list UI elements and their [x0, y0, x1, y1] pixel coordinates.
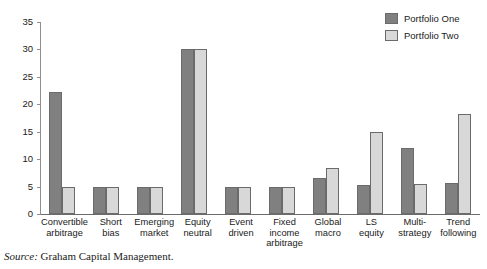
- bar-group: [392, 22, 436, 214]
- y-axis-tick-label: 35: [7, 17, 33, 27]
- category-label-line: Event: [220, 217, 261, 228]
- x-axis-category-label: Convertiblearbitrage: [40, 217, 89, 249]
- category-label-line: Trend: [438, 217, 479, 228]
- bar[interactable]: [93, 187, 106, 214]
- x-axis-category-label: Trendfollowing: [437, 217, 480, 249]
- bar[interactable]: [137, 187, 150, 214]
- category-label-line: Equity: [177, 217, 218, 228]
- bar[interactable]: [282, 187, 295, 214]
- category-label-line: arbitrage: [41, 228, 88, 239]
- bar[interactable]: [238, 187, 251, 214]
- category-label-line: LS: [351, 217, 392, 228]
- category-label-line: income: [264, 228, 305, 239]
- source-value: Graham Capital Management.: [38, 250, 174, 262]
- x-axis-category-label: Multi-strategy: [393, 217, 436, 249]
- bar[interactable]: [458, 114, 471, 214]
- bar[interactable]: [313, 178, 326, 214]
- bar[interactable]: [357, 185, 370, 214]
- category-label-line: macro: [307, 228, 348, 239]
- bar[interactable]: [194, 49, 207, 214]
- bar[interactable]: [414, 184, 427, 214]
- bar-group: [348, 22, 392, 214]
- category-label-line: Fixed: [264, 217, 305, 228]
- y-axis-tick-label: 15: [7, 127, 33, 137]
- bar-group: [436, 22, 480, 214]
- bar[interactable]: [401, 148, 414, 214]
- category-label-line: Convertible: [41, 217, 88, 228]
- category-label-line: strategy: [394, 228, 435, 239]
- x-axis-category-label: Emergingmarket: [132, 217, 175, 249]
- x-axis-category-label: Globalmacro: [306, 217, 349, 249]
- category-label-line: market: [133, 228, 174, 239]
- bar-chart-figure: Portfolio OnePortfolio Two 0510152025303…: [0, 0, 487, 269]
- category-label-line: Multi-: [394, 217, 435, 228]
- y-axis-tick-label: 30: [7, 44, 33, 54]
- y-axis-tick-label: 10: [7, 154, 33, 164]
- bar-group: [216, 22, 260, 214]
- y-axis-tick-label: 5: [7, 182, 33, 192]
- bar[interactable]: [326, 168, 339, 214]
- bar-group: [128, 22, 172, 214]
- category-label-line: driven: [220, 228, 261, 239]
- category-label-line: bias: [90, 228, 131, 239]
- x-axis-category-label: Eventdriven: [219, 217, 262, 249]
- bar-group: [40, 22, 84, 214]
- category-label-line: arbitrage: [264, 238, 305, 249]
- y-axis-tick-label: 25: [7, 72, 33, 82]
- bar[interactable]: [370, 132, 383, 214]
- plot-area: 05101520253035: [40, 22, 480, 214]
- bar[interactable]: [181, 49, 194, 214]
- x-axis-category-label: Shortbias: [89, 217, 132, 249]
- bar-group: [172, 22, 216, 214]
- y-axis-tick-label: 0: [7, 209, 33, 219]
- bar-groups: [40, 22, 480, 214]
- x-axis-category-labels: ConvertiblearbitrageShortbiasEmergingmar…: [40, 217, 480, 249]
- bar-group: [304, 22, 348, 214]
- bar[interactable]: [445, 183, 458, 214]
- bar[interactable]: [225, 187, 238, 214]
- bar[interactable]: [62, 187, 75, 214]
- category-label-line: Global: [307, 217, 348, 228]
- category-label-line: Emerging: [133, 217, 174, 228]
- y-axis-tick-label: 20: [7, 99, 33, 109]
- category-label-line: equity: [351, 228, 392, 239]
- category-label-line: Short: [90, 217, 131, 228]
- bar[interactable]: [269, 187, 282, 214]
- x-axis-category-label: Equityneutral: [176, 217, 219, 249]
- bar-group: [84, 22, 128, 214]
- x-axis-category-label: Fixedincomearbitrage: [263, 217, 306, 249]
- source-label: Source:: [4, 250, 38, 262]
- bar-group: [260, 22, 304, 214]
- source-caption: Source: Graham Capital Management.: [4, 250, 173, 263]
- category-label-line: following: [438, 228, 479, 239]
- y-axis-tick-mark: [37, 214, 41, 215]
- bar[interactable]: [49, 92, 62, 214]
- category-label-line: neutral: [177, 228, 218, 239]
- bar[interactable]: [106, 187, 119, 214]
- x-axis-line: [40, 214, 480, 215]
- x-axis-category-label: LSequity: [350, 217, 393, 249]
- bar[interactable]: [150, 187, 163, 214]
